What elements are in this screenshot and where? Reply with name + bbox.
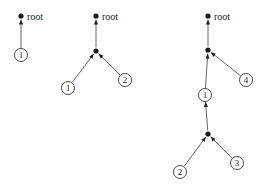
tree-diagram: root1root12root4123	[0, 0, 265, 187]
leaf-label: 2	[123, 75, 128, 85]
leaf-label: 4	[244, 75, 249, 85]
edge-arrow	[72, 54, 94, 83]
leaf-label: 2	[178, 167, 183, 177]
edge-arrow	[206, 102, 208, 130]
leaf-node-1: 1	[15, 49, 28, 62]
edge-arrow	[184, 137, 206, 166]
leaf-node-4: 4	[240, 74, 253, 87]
leaf-node-1: 1	[199, 89, 212, 102]
leaf-node-3: 3	[231, 157, 244, 170]
internal-node	[93, 48, 98, 53]
edge-arrow	[205, 54, 207, 88]
leaf-label: 1	[19, 50, 24, 60]
leaf-label: 1	[66, 83, 71, 93]
nodes-layer: root1root12root4123	[15, 11, 253, 179]
root-node	[205, 13, 210, 18]
edge-arrow	[211, 137, 233, 159]
edge-arrow	[99, 54, 121, 76]
leaf-node-1: 1	[62, 82, 75, 95]
root-label: root	[102, 11, 118, 22]
leaf-node-2: 2	[174, 166, 187, 179]
leaf-node-2: 2	[119, 74, 132, 87]
root-label: root	[27, 11, 43, 22]
leaf-label: 1	[203, 90, 208, 100]
root-label: root	[214, 11, 230, 22]
leaf-label: 3	[235, 158, 240, 168]
internal-node	[205, 47, 210, 52]
internal-node	[205, 131, 210, 136]
edge-arrow	[211, 52, 241, 75]
root-node	[18, 13, 23, 18]
root-node	[93, 13, 98, 18]
